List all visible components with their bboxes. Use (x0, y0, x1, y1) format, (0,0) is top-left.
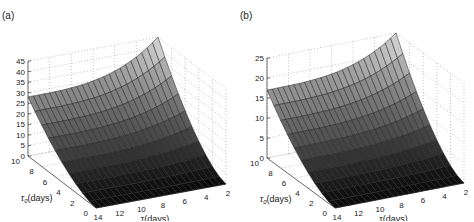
tau0-axis-label: τ0(days) (260, 194, 292, 205)
z-tick-label: 25 (255, 54, 264, 63)
tau-tick-label: 12 (354, 209, 363, 218)
z-tick-label: 15 (16, 120, 25, 129)
tau0-tick-label: 6 (282, 179, 287, 188)
z-tick-label: 5 (21, 141, 26, 150)
panel-label: (b) (240, 10, 252, 21)
tau0-tick-label: 4 (295, 189, 300, 198)
z-tick-label: 40 (16, 68, 25, 77)
z-tick-label: 15 (255, 94, 264, 103)
surface (28, 37, 226, 208)
z-tick-label: 20 (255, 74, 264, 83)
tau0-tick-label: 8 (268, 169, 273, 178)
z-tick-label: 5 (260, 134, 265, 143)
tau0-axis-label: τ0(days) (21, 193, 53, 204)
tau0-tick-label: 10 (250, 159, 259, 168)
z-tick-label: 0 (21, 152, 26, 161)
z-tick-label: 10 (16, 131, 25, 140)
tau0-tick-label: 0 (323, 209, 328, 218)
tau-tick-label: 12 (115, 209, 124, 218)
tau0-tick-label: 8 (29, 167, 34, 176)
tau-axis-label: τ(days) (141, 214, 170, 221)
tau-tick-label: 4 (442, 192, 447, 201)
panel-label: (a) (2, 10, 14, 21)
tau-tick-label: 2 (464, 188, 469, 197)
tau0-tick-label: 0 (84, 209, 89, 218)
panel-b: (b)051015202502468101412108642τ0(days)τ(… (240, 10, 469, 221)
z-tick-label: 25 (16, 99, 25, 108)
figure: (a)05101520253035404502468101412108642τ0… (0, 0, 474, 221)
tau0-tick-label: 10 (11, 157, 20, 166)
tau0-tick-label: 4 (56, 188, 61, 197)
tau-tick-label: 4 (204, 193, 209, 202)
z-tick-label: 10 (255, 114, 264, 123)
tau0-tick-label: 6 (43, 178, 48, 187)
z-tick-label: 0 (260, 154, 265, 163)
z-tick-label: 30 (16, 89, 25, 98)
tau-tick-label: 10 (376, 205, 385, 214)
tau-tick-label: 10 (137, 205, 146, 214)
tau-tick-label: 14 (94, 213, 103, 221)
z-tick-label: 20 (16, 110, 25, 119)
tau0-tick-label: 2 (309, 199, 314, 208)
tau-tick-label: 6 (182, 197, 187, 206)
z-tick-label: 45 (16, 57, 25, 66)
panel-a: (a)05101520253035404502468101412108642τ0… (2, 10, 231, 221)
surface (267, 33, 464, 208)
tau-tick-label: 14 (333, 213, 342, 221)
tau-tick-label: 8 (399, 201, 404, 210)
tau-axis-label: τ(days) (379, 214, 408, 222)
tau0-tick-label: 2 (70, 199, 75, 208)
z-tick-label: 35 (16, 78, 25, 87)
tau-tick-label: 2 (226, 189, 231, 198)
tau-tick-label: 8 (161, 201, 166, 210)
tau-tick-label: 6 (421, 196, 426, 205)
